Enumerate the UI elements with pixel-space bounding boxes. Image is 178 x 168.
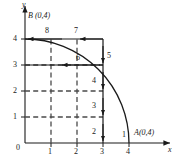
- x-tick-1: 1: [48, 148, 52, 156]
- y-tick-1: 1: [13, 113, 17, 121]
- direction-arrows: [28, 39, 103, 141]
- tick-marks: [21, 39, 129, 147]
- step-label-8: 8: [45, 27, 49, 35]
- x-tick-4: 4: [126, 148, 130, 156]
- step-label-7: 7: [74, 27, 78, 35]
- y-tick-4: 4: [13, 35, 17, 43]
- step-label-4: 4: [92, 77, 96, 85]
- y-tick-2: 2: [13, 87, 17, 95]
- origin-label: 0: [16, 144, 20, 152]
- figure-container: y x 0 1 2 3 4 1 2 3 4 B (0,4) A(0,4) 1 2…: [0, 0, 178, 168]
- y-axis-label: y: [22, 1, 26, 9]
- point-a-label: A(0,4): [134, 129, 154, 137]
- step-label-5: 5: [107, 52, 111, 60]
- x-axis-label: x: [168, 146, 172, 154]
- step-label-6: 6: [76, 54, 80, 62]
- x-tick-2: 2: [74, 148, 78, 156]
- diagram-canvas: [0, 0, 178, 168]
- x-tick-3: 3: [100, 148, 104, 156]
- step-label-1: 1: [122, 131, 126, 139]
- y-tick-3: 3: [13, 61, 17, 69]
- step-label-2: 2: [92, 128, 96, 136]
- point-b-label: B (0,4): [28, 12, 50, 20]
- step-label-3: 3: [92, 102, 96, 110]
